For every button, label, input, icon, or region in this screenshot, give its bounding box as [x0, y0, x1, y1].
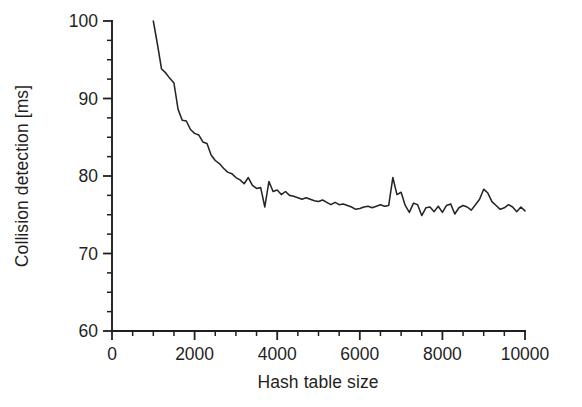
- x-tick-label: 6000: [340, 344, 379, 364]
- x-tick-label: 8000: [423, 344, 462, 364]
- y-axis-title: Collision detection [ms]: [12, 85, 32, 267]
- y-tick-label: 60: [79, 321, 99, 341]
- x-axis-title: Hash table size: [257, 372, 378, 392]
- x-tick-label: 2000: [175, 344, 214, 364]
- y-tick-label: 70: [79, 244, 99, 264]
- x-tick-label: 4000: [258, 344, 297, 364]
- chart-figure: 60708090100 0200040006000800010000 Hash …: [0, 0, 582, 407]
- y-tick-label: 80: [79, 166, 99, 186]
- line-chart: 60708090100 0200040006000800010000 Hash …: [0, 0, 582, 407]
- y-tick-label: 90: [79, 89, 99, 109]
- x-tick-label: 10000: [501, 344, 550, 364]
- y-tick-label: 100: [69, 11, 98, 31]
- x-tick-label: 0: [107, 344, 117, 364]
